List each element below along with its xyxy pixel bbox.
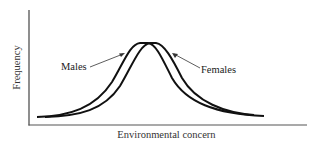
- females-arrow: [174, 54, 200, 68]
- males-curve: [37, 43, 264, 117]
- males-arrowhead: [119, 53, 125, 57]
- males-label: Males: [61, 61, 87, 72]
- males-arrow: [90, 54, 123, 67]
- y-axis-label: Frequency: [11, 38, 22, 98]
- x-axis-label: Environmental concern: [0, 129, 323, 140]
- females-label: Females: [201, 64, 236, 75]
- females-curve: [45, 43, 254, 117]
- chart-canvas: [0, 0, 323, 148]
